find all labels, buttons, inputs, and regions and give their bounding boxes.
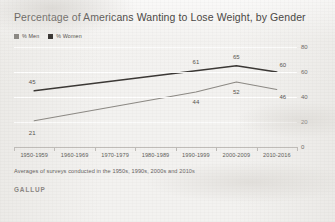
data-label-men-6: 46 (279, 94, 286, 100)
x-tick-mark-4 (176, 147, 177, 151)
data-label-men-5: 52 (233, 89, 240, 95)
x-tick-label-0: 1950-1959 (20, 152, 48, 158)
x-tick-label-4: 1990-1999 (182, 152, 210, 158)
data-label-women-0: 45 (29, 79, 36, 85)
y-tick-label-40: 40 (301, 94, 308, 100)
gridline-40 (14, 97, 297, 98)
y-tick-label-60: 60 (301, 69, 308, 75)
x-tick-label-3: 1980-1989 (142, 152, 170, 158)
data-label-women-4: 61 (193, 59, 200, 65)
x-tick-mark-6 (257, 147, 258, 151)
legend-item-women: % Women (48, 33, 81, 39)
data-label-men-4: 44 (193, 99, 200, 105)
x-tick-mark-5 (216, 147, 217, 151)
x-tick-mark-7 (297, 147, 298, 151)
y-tick-label-80: 80 (301, 44, 308, 50)
plot-area (14, 47, 297, 147)
gridline-80 (14, 47, 297, 48)
gridline-60 (14, 72, 297, 73)
chart-footnote: Averages of surveys conducted in the 195… (14, 168, 195, 174)
chart-legend: % Men % Women (14, 33, 82, 39)
chart-screenshot: Percentage of Americans Wanting to Lose … (0, 0, 335, 222)
x-tick-mark-2 (95, 147, 96, 151)
data-label-women-6: 60 (279, 62, 286, 68)
x-tick-label-1: 1960-1969 (61, 152, 89, 158)
data-label-women-5: 65 (233, 54, 240, 60)
chart-title: Percentage of Americans Wanting to Lose … (14, 11, 306, 23)
x-tick-mark-3 (135, 147, 136, 151)
gridline-20 (14, 122, 297, 123)
data-label-men-0: 21 (29, 130, 36, 136)
gallup-brand: GALLUP (14, 186, 46, 193)
x-axis-line (14, 147, 297, 148)
series-line-women (34, 66, 277, 91)
legend-label-men: % Men (22, 33, 39, 39)
x-tick-label-2: 1970-1979 (101, 152, 129, 158)
y-tick-label-20: 20 (301, 119, 308, 125)
x-tick-label-6: 2010-2016 (263, 152, 291, 158)
y-tick-label-0: 0 (301, 144, 304, 150)
legend-label-women: % Women (56, 33, 81, 39)
x-tick-label-5: 2000-2009 (223, 152, 251, 158)
legend-swatch-men (14, 34, 19, 39)
x-tick-mark-1 (54, 147, 55, 151)
legend-item-men: % Men (14, 33, 39, 39)
legend-swatch-women (48, 34, 53, 39)
x-tick-mark-0 (14, 147, 15, 151)
series-line-men (34, 82, 277, 121)
